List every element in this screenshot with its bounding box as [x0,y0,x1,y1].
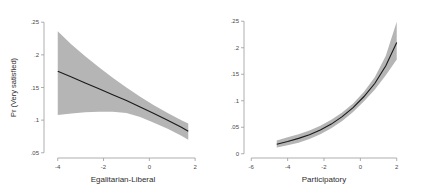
tick-labels-right: 0.05.1.15.2.25-6-4-202 [231,18,399,170]
figure-container: .05.1.15.2.25-4-202 Pr (Very satisfied) … [0,0,427,194]
y-axis-title-left: Pr (Very satisfied) [9,57,18,117]
x-tick-label: -6 [249,164,255,170]
y-tick-label: .15 [231,71,240,77]
chart-panel-participatory: 0.05.1.15.2.25-6-4-202 Participatory [213,0,426,194]
confidence-band-left [58,31,189,139]
y-tick-label: .1 [34,117,40,123]
x-axis-title-left: Egalitarian-Liberal [91,175,156,184]
fit-line-right [277,42,397,144]
y-tick-label: .15 [31,85,40,91]
y-tick-label: .2 [34,52,40,58]
y-tick-label: .25 [231,18,240,24]
x-tick-label: -4 [55,164,61,170]
plot-svg-left: .05.1.15.2.25-4-202 Pr (Very satisfied) … [0,0,213,194]
x-tick-label: 2 [395,164,399,170]
y-tick-label: .2 [234,45,240,51]
y-tick-label: .05 [31,150,40,156]
x-tick-label: -2 [321,164,327,170]
chart-panel-egalitarian-liberal: .05.1.15.2.25-4-202 Pr (Very satisfied) … [0,0,213,194]
x-tick-label: 0 [359,164,363,170]
x-tick-label: -4 [285,164,291,170]
confidence-band-right [277,22,397,148]
x-tick-label: 2 [193,164,197,170]
plot-svg-right: 0.05.1.15.2.25-6-4-202 Participatory [213,0,426,194]
x-tick-label: -2 [101,164,107,170]
y-tick-label: .1 [234,98,240,104]
x-axis-title-right: Participatory [302,175,346,184]
y-tick-label: .05 [231,124,240,130]
y-tick-label: .25 [31,19,40,25]
y-tick-label: 0 [236,151,240,157]
x-tick-label: 0 [148,164,152,170]
